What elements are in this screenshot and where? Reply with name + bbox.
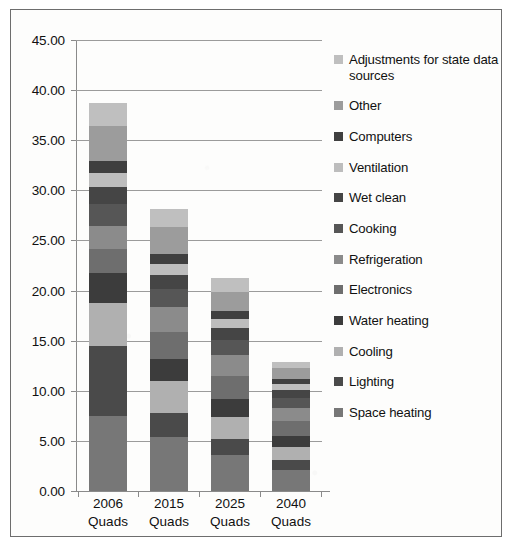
bar-segment[interactable] (272, 470, 310, 491)
bar-segment[interactable] (89, 346, 127, 416)
legend-label: Refrigeration (349, 252, 423, 268)
legend-swatch-icon (334, 193, 343, 202)
legend-label: Cooling (349, 344, 393, 360)
bar-segment[interactable] (89, 187, 127, 204)
y-tick-mark (71, 441, 76, 442)
chart-legend: Adjustments for state data sourcesOtherC… (334, 52, 506, 436)
y-tick-mark (71, 40, 76, 41)
legend-swatch-icon (334, 316, 343, 325)
legend-item[interactable]: Space heating (334, 405, 506, 421)
bar-segment[interactable] (211, 278, 249, 292)
bar-segment[interactable] (89, 126, 127, 161)
bar-segment[interactable] (89, 173, 127, 187)
bar-segment[interactable] (89, 249, 127, 273)
figure-frame: 0.005.0010.0015.0020.0025.0030.0035.0040… (10, 9, 502, 537)
bar-segment[interactable] (211, 311, 249, 319)
legend-label: Cooking (349, 221, 396, 237)
x-axis-label-line: Quads (251, 513, 331, 531)
bar-segment[interactable] (89, 204, 127, 226)
legend-swatch-icon (334, 132, 343, 141)
legend-label: Ventilation (349, 160, 408, 176)
legend-item[interactable]: Refrigeration (334, 252, 506, 268)
bar-segment[interactable] (211, 399, 249, 417)
legend-item[interactable]: Computers (334, 129, 506, 145)
bar-segment[interactable] (211, 455, 249, 491)
bar-segment[interactable] (150, 227, 188, 254)
legend-swatch-icon (334, 347, 343, 356)
y-tick-label: 0.00 (39, 484, 65, 499)
legend-item[interactable]: Adjustments for state data sources (334, 52, 506, 83)
bar-segment[interactable] (89, 273, 127, 303)
legend-item[interactable]: Cooking (334, 221, 506, 237)
legend-swatch-icon (334, 285, 343, 294)
y-tick-mark (71, 291, 76, 292)
bar-segment[interactable] (272, 421, 310, 436)
bar-segment[interactable] (89, 303, 127, 346)
y-tick-mark (71, 240, 76, 241)
legend-item[interactable]: Wet clean (334, 190, 506, 206)
bar-segment[interactable] (150, 254, 188, 264)
bar-segment[interactable] (150, 209, 188, 226)
y-tick-mark (71, 190, 76, 191)
stacked-bar[interactable] (272, 362, 310, 491)
bar-segment[interactable] (272, 368, 310, 379)
legend-item[interactable]: Other (334, 98, 506, 114)
bar-segment[interactable] (272, 398, 310, 408)
bar-segment[interactable] (272, 447, 310, 460)
legend-swatch-icon (334, 255, 343, 264)
bar-segment[interactable] (211, 319, 249, 328)
y-tick-label: 35.00 (32, 133, 65, 148)
legend-swatch-icon (334, 224, 343, 233)
legend-swatch-icon (334, 101, 343, 110)
bar-segment[interactable] (89, 416, 127, 491)
stacked-bar[interactable] (150, 209, 188, 491)
y-tick-label: 15.00 (32, 333, 65, 348)
legend-label: Adjustments for state data sources (349, 52, 506, 83)
bar-segment[interactable] (211, 439, 249, 455)
bar-segment[interactable] (150, 381, 188, 413)
y-tick-label: 30.00 (32, 183, 65, 198)
bar-segment[interactable] (211, 328, 249, 340)
bar-segment[interactable] (272, 460, 310, 470)
bar-segment[interactable] (150, 264, 188, 275)
bar-segment[interactable] (272, 390, 310, 398)
y-tick-label: 45.00 (32, 33, 65, 48)
bar-segment[interactable] (150, 359, 188, 381)
bar-segment[interactable] (211, 292, 249, 311)
bar-segment[interactable] (272, 408, 310, 421)
legend-label: Space heating (349, 405, 431, 421)
bar-segment[interactable] (150, 307, 188, 332)
bar-segment[interactable] (272, 436, 310, 447)
stacked-bar[interactable] (89, 103, 127, 491)
y-tick-mark (71, 90, 76, 91)
legend-label: Electronics (349, 282, 412, 298)
stacked-bar[interactable] (211, 278, 249, 491)
bar-segment[interactable] (211, 376, 249, 399)
bar-segment[interactable] (150, 289, 188, 307)
bar-segment[interactable] (150, 332, 188, 359)
y-tick-mark (71, 140, 76, 141)
legend-label: Wet clean (349, 190, 406, 206)
y-tick-label: 10.00 (32, 383, 65, 398)
bar-segment[interactable] (211, 355, 249, 376)
legend-swatch-icon (334, 408, 343, 417)
bar-segment[interactable] (89, 161, 127, 173)
legend-label: Computers (349, 129, 412, 145)
legend-label: Water heating (349, 313, 429, 329)
legend-item[interactable]: Cooling (334, 344, 506, 360)
legend-swatch-icon (334, 377, 343, 386)
bar-segment[interactable] (150, 413, 188, 437)
bar-segment[interactable] (89, 103, 127, 126)
y-tick-label: 40.00 (32, 83, 65, 98)
legend-item[interactable]: Electronics (334, 282, 506, 298)
bar-segment[interactable] (150, 275, 188, 289)
y-tick-label: 5.00 (39, 433, 65, 448)
legend-item[interactable]: Ventilation (334, 160, 506, 176)
legend-item[interactable]: Water heating (334, 313, 506, 329)
bar-segment[interactable] (150, 437, 188, 491)
bar-segment[interactable] (211, 340, 249, 355)
legend-item[interactable]: Lighting (334, 374, 506, 390)
bar-segment[interactable] (211, 417, 249, 439)
bar-segment[interactable] (89, 226, 127, 248)
x-axis-line (76, 491, 330, 492)
